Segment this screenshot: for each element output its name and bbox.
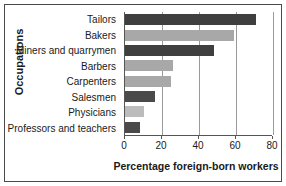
bar <box>125 30 234 41</box>
x-tick-label: 60 <box>229 140 240 151</box>
category-label: Bakers <box>20 28 120 44</box>
x-tick-label: 0 <box>121 140 127 151</box>
bar <box>125 122 140 133</box>
bar-row <box>125 58 272 73</box>
category-label: Professors and teachers <box>20 121 120 137</box>
bar-row <box>125 27 272 42</box>
x-tick-mark <box>124 136 125 139</box>
bar-row <box>125 104 272 119</box>
bar-row <box>125 74 272 89</box>
x-tick-mark <box>198 136 199 139</box>
x-tick-label: 80 <box>266 140 277 151</box>
x-tick-label: 40 <box>192 140 203 151</box>
bar-row <box>125 12 272 27</box>
category-label: Carpenters <box>20 74 120 90</box>
x-tick-mark <box>272 136 273 139</box>
bar <box>125 45 214 56</box>
x-tick-mark <box>161 136 162 139</box>
bar <box>125 60 173 71</box>
category-label: Physicians <box>20 105 120 121</box>
chart-figure: Occupations Tailors Bakers Miners and qu… <box>0 0 286 186</box>
x-tick-mark <box>235 136 236 139</box>
bar <box>125 106 144 117</box>
bar <box>125 14 256 25</box>
x-tick-label: 20 <box>155 140 166 151</box>
category-label: Tailors <box>20 12 120 28</box>
bar-row <box>125 120 272 135</box>
category-label: Barbers <box>20 59 120 75</box>
bar-row <box>125 43 272 58</box>
x-axis-ticks: 020406080 <box>124 136 272 150</box>
plot-area <box>124 12 272 136</box>
x-axis-title: Percentage foreign-born workers <box>110 160 282 172</box>
bar-series <box>125 12 272 135</box>
bar <box>125 76 171 87</box>
category-label: Miners and quarrymen <box>20 43 120 59</box>
category-label-list: Tailors Bakers Miners and quarrymen Barb… <box>20 12 120 136</box>
category-label: Salesmen <box>20 90 120 106</box>
bar <box>125 91 155 102</box>
bar-row <box>125 89 272 104</box>
